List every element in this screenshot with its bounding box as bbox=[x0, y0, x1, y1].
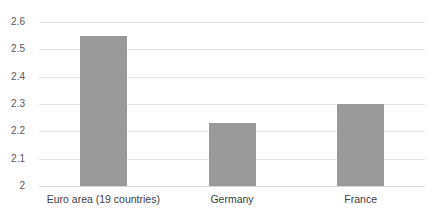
y-axis-tick-label: 2.4 bbox=[0, 72, 25, 82]
bar bbox=[209, 123, 256, 186]
y-axis-tick-label: 2.1 bbox=[0, 154, 25, 164]
x-axis-category-label: Germany bbox=[168, 192, 297, 206]
y-axis-tick-label: 2.6 bbox=[0, 17, 25, 27]
bar bbox=[80, 36, 127, 186]
y-axis-tick-label: 2.3 bbox=[0, 99, 25, 109]
bar bbox=[337, 104, 384, 186]
bar-series bbox=[39, 22, 425, 186]
gridline bbox=[39, 186, 425, 187]
x-axis-category-label: Euro area (19 countries) bbox=[39, 192, 168, 206]
y-axis-tick-label: 2.2 bbox=[0, 126, 25, 136]
x-axis-category-label: France bbox=[296, 192, 425, 206]
y-axis-tick-label: 2 bbox=[0, 181, 25, 191]
plot-area: 22.12.22.32.42.52.6 bbox=[39, 22, 425, 186]
bar-chart: 22.12.22.32.42.52.6 Euro area (19 countr… bbox=[0, 0, 433, 222]
x-axis-category-labels: Euro area (19 countries)GermanyFrance bbox=[39, 192, 425, 216]
y-axis-tick-label: 2.5 bbox=[0, 44, 25, 54]
